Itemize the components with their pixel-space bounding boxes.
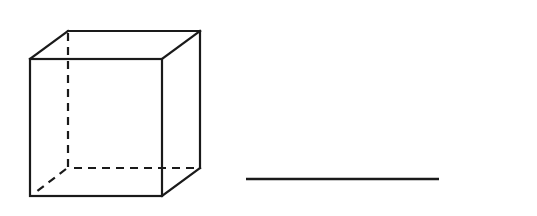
cube-edge-top-right: [162, 31, 200, 59]
cube: [30, 31, 200, 196]
cube-edge-top-left: [30, 31, 68, 59]
cube-hidden-edges: [36, 33, 198, 192]
cube-front-face: [30, 59, 162, 196]
cube-edge-bottom-right: [162, 168, 200, 196]
diagram-canvas: [0, 0, 537, 216]
cube-hidden-edge-bottom-left: [36, 169, 66, 192]
